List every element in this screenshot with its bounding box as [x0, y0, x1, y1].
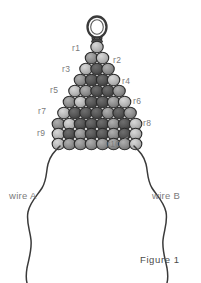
wire-b-label: wire B — [152, 190, 180, 201]
bead-pyramid — [52, 41, 142, 149]
row-label-r2: r2 — [113, 55, 121, 65]
wire-loop-icon — [88, 17, 107, 45]
row-label-r8: r8 — [143, 118, 151, 128]
row-label-r5: r5 — [50, 85, 58, 95]
bead-r2-2 — [96, 52, 108, 63]
row-label-r7: r7 — [38, 106, 46, 116]
row-label-r3: r3 — [62, 64, 70, 74]
bead-r1-1 — [91, 41, 103, 52]
bead-r5-5 — [113, 85, 125, 96]
row-label-r4: r4 — [122, 76, 130, 86]
figure-canvas: r1r2r3r4r5r6r7r8r9r10 wire Awire B Figur… — [0, 0, 201, 283]
wire-a-path — [26, 146, 60, 283]
bead-wire-diagram — [0, 0, 201, 283]
row-label-r1: r1 — [72, 43, 80, 53]
bead-r4-4 — [107, 74, 119, 85]
bead-r7-7 — [124, 107, 136, 118]
row-label-r9: r9 — [37, 128, 45, 138]
wire-a-label: wire A — [9, 190, 37, 201]
row-label-r6: r6 — [133, 96, 141, 106]
figure-caption: Figure 1 — [140, 254, 180, 265]
bead-r6-6 — [118, 96, 130, 107]
bead-r3-3 — [102, 63, 114, 74]
row-label-r10: r10 — [107, 139, 120, 149]
